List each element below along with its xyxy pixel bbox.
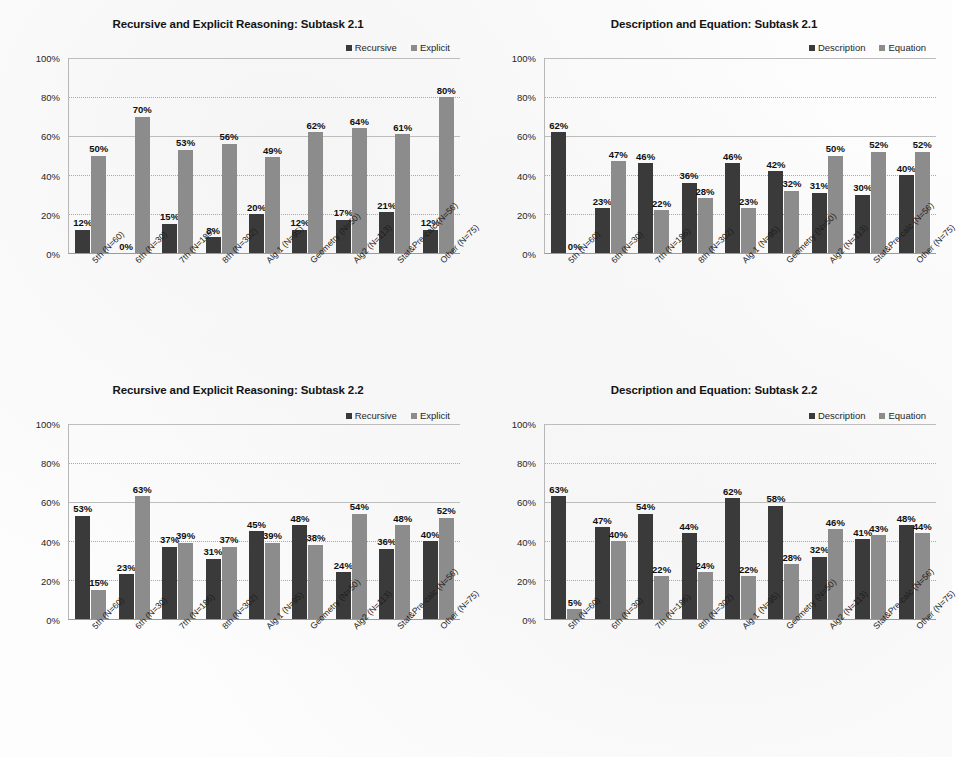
bar[interactable]: 28% [698, 58, 713, 253]
x-axis-tick: Alg 1 (N=95) [242, 622, 286, 702]
bar[interactable]: 45% [249, 424, 264, 619]
bar-value-label: 62% [306, 121, 325, 131]
bar-group: 63%5% [545, 424, 588, 619]
bar-group: 23%63% [112, 424, 155, 619]
bar[interactable]: 63% [551, 424, 566, 619]
chart-panel-recursive-explicit-2-2: Recursive and Explicit Reasoning: Subtas… [0, 368, 476, 757]
bar[interactable]: 22% [654, 424, 669, 619]
legend-entry[interactable]: Description [809, 42, 866, 53]
bar[interactable]: 63% [135, 424, 150, 619]
bar[interactable]: 61% [395, 58, 410, 253]
bar[interactable]: 22% [741, 424, 756, 619]
bar-value-label: 46% [826, 518, 845, 528]
bar-value-label: 43% [869, 524, 888, 534]
bar-group: 45%39% [243, 424, 286, 619]
bar[interactable]: 38% [308, 424, 323, 619]
bar[interactable]: 22% [654, 58, 669, 253]
bar[interactable]: 23% [119, 424, 134, 619]
bar[interactable]: 12% [292, 58, 307, 253]
x-axis-tick: Other (N=75) [893, 622, 937, 702]
bar-fill [828, 529, 843, 619]
x-axis-tick: Stat&Pre-calc (N=56) [849, 622, 893, 702]
bar[interactable]: 46% [638, 58, 653, 253]
x-axis: 5th (N=60)6th (N=30)7th (N=186)8th (N=30… [544, 256, 936, 336]
bar[interactable]: 43% [871, 424, 886, 619]
bar[interactable]: 32% [784, 58, 799, 253]
x-axis-tick: Stat&Pre-calc (N=56) [373, 256, 417, 336]
bar[interactable]: 15% [162, 58, 177, 253]
bar-fill [828, 156, 843, 254]
x-axis-tick: Other (N=75) [893, 256, 937, 336]
bar[interactable]: 70% [135, 58, 150, 253]
bar[interactable]: 53% [178, 58, 193, 253]
bar-group: 31%37% [199, 424, 242, 619]
bar-value-label: 15% [160, 212, 179, 222]
legend-entry[interactable]: Explicit [411, 42, 450, 53]
bar-group: 8%56% [199, 58, 242, 253]
bar[interactable]: 39% [178, 424, 193, 619]
y-axis-tick-label: 100% [36, 53, 60, 64]
bar-value-label: 24% [696, 561, 715, 571]
y-axis: 0%20%40%60%80%100% [28, 424, 64, 620]
bar-group: 12%62% [286, 58, 329, 253]
bar[interactable]: 31% [206, 424, 221, 619]
legend-entry[interactable]: Explicit [411, 410, 450, 421]
bar-series-container: 53%15%23%63%37%39%31%37%45%39%48%38%24%5… [69, 424, 460, 619]
bar[interactable]: 62% [725, 424, 740, 619]
bar[interactable]: 37% [162, 424, 177, 619]
bar-series-container: 63%5%47%40%54%22%44%24%62%22%58%28%32%46… [545, 424, 936, 619]
legend-entry[interactable]: Recursive [346, 42, 397, 53]
bar[interactable]: 48% [292, 424, 307, 619]
legend-entry[interactable]: Equation [879, 42, 926, 53]
bar[interactable]: 23% [741, 58, 756, 253]
bar[interactable]: 42% [768, 58, 783, 253]
chart-title: Recursive and Explicit Reasoning: Subtas… [0, 384, 476, 396]
bar[interactable]: 39% [265, 424, 280, 619]
bar[interactable]: 53% [75, 424, 90, 619]
bar[interactable]: 47% [595, 424, 610, 619]
bar-value-label: 36% [680, 171, 699, 181]
bar[interactable]: 5% [567, 424, 582, 619]
bar[interactable]: 37% [222, 424, 237, 619]
bar-value-label: 21% [377, 201, 396, 211]
bar[interactable]: 49% [265, 58, 280, 253]
legend-entry[interactable]: Equation [879, 410, 926, 421]
bar[interactable]: 50% [91, 58, 106, 253]
bar[interactable]: 62% [551, 58, 566, 253]
bar[interactable]: 52% [871, 58, 886, 253]
bar[interactable]: 62% [308, 58, 323, 253]
bar[interactable]: 0% [119, 58, 134, 253]
bar[interactable]: 23% [595, 58, 610, 253]
bar[interactable]: 15% [91, 424, 106, 619]
bar-value-label: 40% [421, 530, 440, 540]
bar[interactable]: 54% [638, 424, 653, 619]
bar-value-label: 22% [739, 565, 758, 575]
bar-group: 30%52% [849, 58, 892, 253]
bar[interactable]: 20% [249, 58, 264, 253]
bar[interactable]: 58% [768, 424, 783, 619]
bar[interactable]: 47% [611, 58, 626, 253]
x-axis-tick: 6th (N=30) [112, 622, 156, 702]
bar[interactable]: 0% [567, 58, 582, 253]
bar[interactable]: 46% [725, 58, 740, 253]
plot-canvas: 63%5%47%40%54%22%44%24%62%22%58%28%32%46… [544, 424, 936, 620]
bar-group: 47%40% [588, 424, 631, 619]
y-axis-tick-label: 60% [517, 497, 536, 508]
bar-value-label: 31% [810, 181, 829, 191]
bar[interactable]: 40% [611, 424, 626, 619]
legend-swatch-icon [809, 45, 815, 51]
chart-panel-description-equation-2-1: Description and Equation: Subtask 2.1Des… [476, 0, 952, 368]
bar[interactable]: 8% [206, 58, 221, 253]
bar[interactable]: 24% [698, 424, 713, 619]
bar[interactable]: 56% [222, 58, 237, 253]
chart-legend: DescriptionEquation [809, 410, 926, 421]
legend-entry[interactable]: Recursive [346, 410, 397, 421]
bar[interactable]: 36% [682, 58, 697, 253]
bar[interactable]: 44% [682, 424, 697, 619]
legend-entry[interactable]: Description [809, 410, 866, 421]
bar[interactable]: 12% [75, 58, 90, 253]
x-axis-tick: Other (N=75) [417, 256, 461, 336]
bar[interactable]: 28% [784, 424, 799, 619]
x-axis: 5th (N=60)6th (N=30)7th (N=186)8th (N=30… [544, 622, 936, 702]
bar[interactable]: 48% [395, 424, 410, 619]
